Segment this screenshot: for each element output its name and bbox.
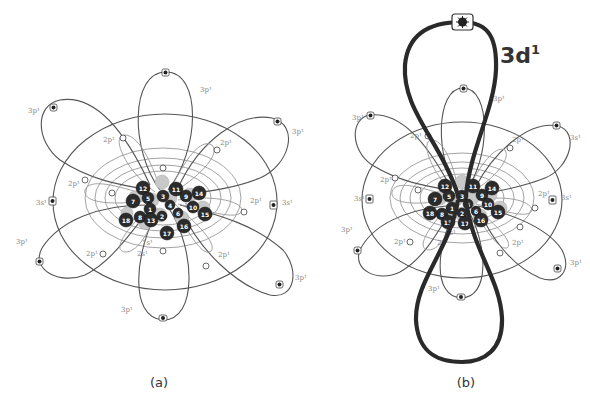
orbital-label: 2p¹	[86, 250, 98, 258]
orbital-label: 2s¹	[137, 250, 148, 258]
svg-text:13: 13	[147, 217, 155, 224]
svg-text:7: 7	[131, 198, 135, 205]
svg-text:5: 5	[146, 195, 150, 202]
svg-text:2: 2	[460, 210, 464, 217]
svg-text:15: 15	[201, 211, 209, 218]
orbital-label: 2p¹	[538, 190, 550, 198]
orbital-label: 3s¹	[282, 199, 293, 207]
orbital-label: 2p¹	[250, 197, 262, 205]
atom-diagram: 3p¹ 3p¹ 3p¹ 3s¹ 3s¹ 3p¹ 3p¹ 3p¹ 2p¹ 2p¹ …	[0, 0, 590, 416]
orbital-label: 3p¹	[200, 86, 212, 94]
orbital-label: 2p¹	[410, 132, 422, 140]
orbital-label: 3p¹	[341, 226, 353, 234]
panel-a-caption: (a)	[150, 375, 168, 390]
orbital-label: 3p¹	[292, 128, 304, 136]
orbital-label: 3p¹	[352, 114, 364, 122]
orbital-loop-lower-left	[39, 205, 150, 278]
electron-3d-spark-icon	[456, 16, 469, 28]
svg-text:18: 18	[426, 210, 434, 217]
panel-a: 3p¹ 3p¹ 3p¹ 3s¹ 3s¹ 3p¹ 3p¹ 3p¹ 2p¹ 2p¹ …	[16, 69, 307, 390]
svg-text:9: 9	[184, 193, 188, 200]
orbital-label: 2p¹	[380, 176, 392, 184]
svg-text:6: 6	[176, 210, 180, 217]
orbital-label: 2p¹	[103, 136, 115, 144]
svg-text:3: 3	[460, 193, 464, 200]
orbital-label: 3p¹	[28, 107, 40, 115]
orbital-label: 2p¹	[512, 239, 524, 247]
orbital-loop-upper-right	[178, 117, 289, 195]
svg-text:4: 4	[168, 202, 172, 209]
orbital-3d-label: 3d1	[500, 42, 540, 68]
svg-text:10: 10	[189, 204, 197, 211]
svg-text:6: 6	[474, 208, 478, 215]
orbital-label: 2p¹	[218, 251, 230, 259]
svg-text:11: 11	[469, 183, 477, 190]
orbital-loop-upper-left	[355, 115, 450, 190]
orbital-label: 3s¹	[570, 134, 581, 142]
svg-text:12: 12	[441, 183, 449, 190]
svg-text:5: 5	[447, 193, 451, 200]
svg-text:15: 15	[494, 209, 502, 216]
orbital-label: 3s¹	[561, 194, 572, 202]
svg-text:8: 8	[138, 214, 142, 221]
svg-text:1: 1	[148, 206, 152, 213]
orbital-label: 3p¹	[121, 306, 133, 314]
orbital-label: 2p¹	[394, 238, 406, 246]
orbital-label: 3p¹	[570, 259, 582, 267]
svg-text:11: 11	[172, 186, 180, 193]
svg-text:10: 10	[484, 201, 492, 208]
orbital-label: 3s¹	[36, 199, 47, 207]
orbital-label: 2p¹	[512, 136, 524, 144]
svg-text:18: 18	[122, 217, 130, 224]
orbital-label: 3p¹	[295, 274, 307, 282]
svg-text:16: 16	[477, 217, 485, 224]
orbital-label: 3p¹	[16, 238, 28, 246]
svg-text:17: 17	[163, 230, 171, 237]
svg-text:1: 1	[450, 205, 454, 212]
orbital-label: 3p¹	[493, 95, 505, 103]
orbital-label: 3p¹	[428, 285, 440, 293]
orbital-label: 1s¹	[142, 239, 153, 247]
svg-text:14: 14	[488, 185, 496, 192]
panel-b-caption: (b)	[457, 375, 475, 390]
svg-text:2: 2	[160, 213, 164, 220]
svg-text:14: 14	[195, 190, 203, 197]
svg-text:16: 16	[180, 223, 188, 230]
svg-text:3: 3	[161, 193, 165, 200]
svg-text:7: 7	[433, 196, 437, 203]
svg-text:12: 12	[139, 185, 147, 192]
orbital-label: 2p¹	[68, 180, 80, 188]
panel-b: 3p¹ 3p¹ 3s¹ 3s¹ 3s¹ 3p¹ 3p¹ 3p¹ 2p¹ 2p¹ …	[341, 14, 582, 390]
orbital-label: 3s¹	[354, 195, 365, 203]
svg-text:9: 9	[480, 192, 484, 199]
orbital-label: 2p¹	[220, 139, 232, 147]
